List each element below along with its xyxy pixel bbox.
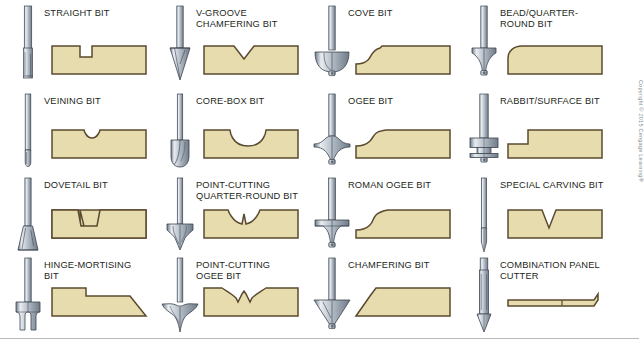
wood-profile-chamfer-edge — [354, 282, 452, 320]
bit-label-combination-panel: COMBINATION PANEL CUTTER — [500, 260, 604, 283]
wood-profile-small-round-groove — [50, 124, 148, 162]
bit-label-ogee: OGEE BIT — [348, 96, 452, 107]
wood-profile-round-over-edge — [506, 40, 604, 78]
bit-cell-point-cutting-quarter: POINT-CUTTING QUARTER-ROUND BIT — [152, 172, 304, 252]
bit-cell-bead-quarter-round: BEAD/QUARTER-ROUND BIT — [456, 0, 608, 88]
wood-profile-cove-edge — [354, 40, 452, 78]
bit-cell-chamfering: CHAMFERING BIT — [304, 252, 456, 330]
bit-label-point-cutting-quarter: POINT-CUTTING QUARTER-ROUND BIT — [196, 180, 300, 203]
bits-grid: STRAIGHT BIT V-GROOVE CHAMFERING BIT — [0, 0, 610, 330]
wood-profile-dovetail-groove — [50, 204, 148, 242]
wood-profile-v-groove — [202, 40, 300, 78]
bit-cell-core-box: CORE-BOX BIT — [152, 88, 304, 172]
footer-divider — [0, 338, 639, 339]
bit-label-hinge-mortising: HINGE-MORTISING BIT — [44, 260, 148, 283]
bit-cell-rabbit-surface: RABBIT/SURFACE BIT — [456, 88, 608, 172]
wood-profile-cove-groove — [202, 124, 300, 162]
bit-label-v-groove-chamfering: V-GROOVE CHAMFERING BIT — [196, 8, 300, 31]
bit-label-point-cutting-ogee: POINT-CUTTING OGEE BIT — [196, 260, 300, 283]
bit-label-veining: VEINING BIT — [44, 96, 148, 107]
bit-label-chamfering: CHAMFERING BIT — [348, 260, 452, 271]
bit-cell-straight: STRAIGHT BIT — [0, 0, 152, 88]
wood-profile-rabbet-edge — [506, 124, 604, 162]
bit-cell-roman-ogee: ROMAN OGEE BIT — [304, 172, 456, 252]
wood-profile-roman-ogee-edge — [354, 204, 452, 242]
bit-cell-point-cutting-ogee: POINT-CUTTING OGEE BIT — [152, 252, 304, 330]
wood-profile-double-cove-point-groove — [202, 204, 300, 242]
bit-cell-ogee: OGEE BIT — [304, 88, 456, 172]
bit-label-straight: STRAIGHT BIT — [44, 8, 148, 19]
wood-profile-narrow-v-groove — [506, 204, 604, 242]
wood-profile-square-groove — [50, 40, 148, 78]
bit-cell-veining: VEINING BIT — [0, 88, 152, 172]
copyright-notice: Copyright © 2015 Cengage Learning® — [638, 80, 644, 182]
bit-label-special-carving: SPECIAL CARVING BIT — [500, 180, 604, 191]
bit-cell-cove: COVE BIT — [304, 0, 456, 88]
bit-cell-combination-panel: COMBINATION PANEL CUTTER — [456, 252, 608, 330]
bit-label-roman-ogee: ROMAN OGEE BIT — [348, 180, 452, 191]
bit-cell-dovetail: DOVETAIL BIT — [0, 172, 152, 252]
bit-label-core-box: CORE-BOX BIT — [196, 96, 300, 107]
bit-label-bead-quarter-round: BEAD/QUARTER-ROUND BIT — [500, 8, 604, 31]
wood-profile-ogee-point-groove — [202, 282, 300, 320]
bit-label-cove: COVE BIT — [348, 8, 452, 19]
bit-label-rabbit-surface: RABBIT/SURFACE BIT — [500, 96, 604, 107]
wood-profile-ogee-edge — [354, 124, 452, 162]
bit-cell-v-groove-chamfering: V-GROOVE CHAMFERING BIT — [152, 0, 304, 88]
bit-label-dovetail: DOVETAIL BIT — [44, 180, 148, 191]
bit-cell-hinge-mortising: HINGE-MORTISING BIT — [0, 252, 152, 330]
bit-cell-special-carving: SPECIAL CARVING BIT — [456, 172, 608, 252]
wood-profile-mortise-step — [50, 282, 148, 320]
wood-profile-panel-slot — [506, 282, 604, 320]
